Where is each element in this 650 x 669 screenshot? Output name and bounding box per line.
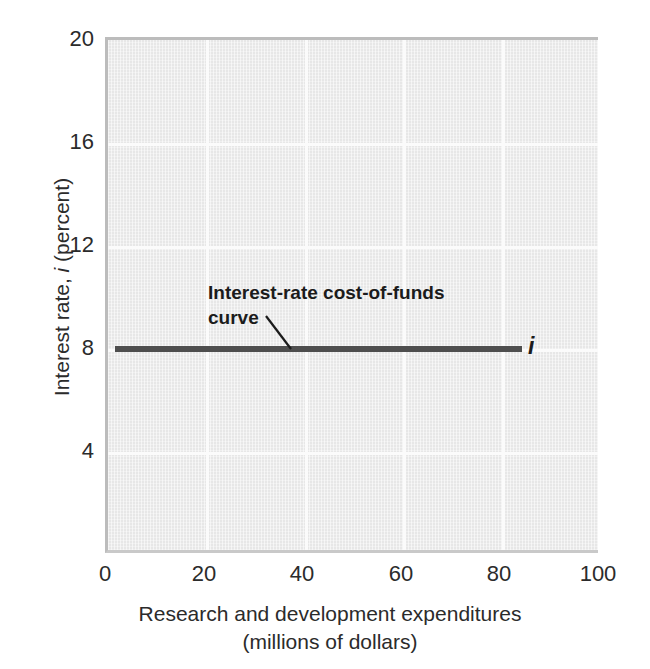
- y-axis-title-suffix: (percent): [50, 178, 73, 268]
- x-tick-label-60: 60: [361, 563, 441, 585]
- curve-annotation-line2: curve: [208, 305, 488, 330]
- y-axis-title-symbol: i: [50, 268, 73, 273]
- gridline-x-80: [502, 40, 505, 550]
- x-axis-title-line1: Research and development expenditures: [60, 600, 600, 628]
- x-tick-label-40: 40: [262, 563, 342, 585]
- curve-annotation: Interest-rate cost-of-funds curve: [208, 280, 488, 330]
- plot-area: Interest-rate cost-of-funds curve: [105, 37, 598, 553]
- curve-series-symbol: i: [528, 333, 534, 360]
- curve-annotation-line1: Interest-rate cost-of-funds: [208, 280, 488, 305]
- x-tick-label-20: 20: [164, 563, 244, 585]
- y-tick-label-20: 20: [34, 28, 94, 50]
- x-axis-title-line2: (millions of dollars): [60, 628, 600, 656]
- y-axis-title-prefix: Interest rate,: [50, 272, 73, 396]
- x-axis-tick-labels: 0 20 40 60 80 100: [0, 563, 650, 593]
- y-axis-title: Interest rate, i (percent): [50, 77, 74, 497]
- gridline-y-12: [108, 246, 598, 249]
- x-tick-label-100: 100: [558, 563, 638, 585]
- gridline-y-16: [108, 143, 598, 146]
- x-axis-title: Research and development expenditures (m…: [60, 600, 600, 656]
- chart-figure: Interest-rate cost-of-funds curve i 20 1…: [0, 0, 650, 669]
- interest-rate-cost-of-funds-curve: [115, 346, 522, 352]
- x-tick-label-80: 80: [459, 563, 539, 585]
- x-tick-label-0: 0: [65, 563, 145, 585]
- gridline-y-4: [108, 452, 598, 455]
